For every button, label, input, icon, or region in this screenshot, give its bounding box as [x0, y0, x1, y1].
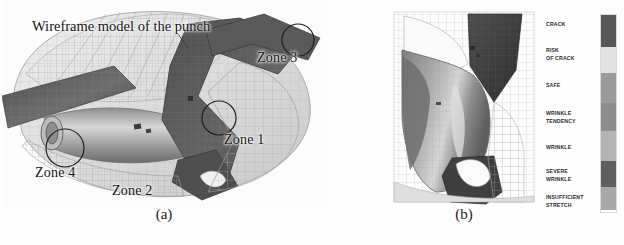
legend-label-severe-line-2: WRINKLE — [546, 176, 598, 184]
zone-3-label: Zone 3 — [257, 50, 297, 66]
wireframe-model-title: Wireframe model of the punch — [32, 18, 210, 35]
legend-label-insufficient-line-2: STRETCH — [546, 202, 598, 210]
caption-panel-b: (b) — [390, 206, 538, 223]
legend-item-crack: CRACK — [546, 21, 598, 29]
legend-label-wrinkle-tendency-line-2: TENDENCY — [546, 118, 598, 126]
legend-label-risk-line-1: RISK — [546, 47, 598, 55]
colorbar-segment-6 — [601, 187, 616, 210]
figure-root: Wireframe model of the punch Zone 1 Zone… — [0, 0, 624, 245]
colorbar-segment-4 — [601, 131, 616, 161]
legend-label-severe-line-1: SEVERE — [546, 168, 598, 176]
legend-label-risk-line-2: OF CRACK — [546, 55, 598, 63]
legend-label-safe-line-1: SAFE — [546, 82, 598, 90]
colorbar-segment-0 — [601, 15, 616, 47]
zone-2-label: Zone 2 — [112, 183, 152, 199]
legend-label-wrinkle-line-1: WRINKLE — [546, 144, 598, 152]
panel-b-render — [390, 6, 538, 206]
legend-item-risk-of-crack: RISK OF CRACK — [546, 47, 598, 62]
colorbar-segment-2 — [601, 73, 616, 103]
forming-limit-legend: CRACK RISK OF CRACK SAFE WRINKLE TENDENC… — [546, 6, 624, 211]
panel-b-formability-result — [390, 6, 538, 206]
legend-item-wrinkle: WRINKLE — [546, 144, 598, 152]
colorbar-segment-1 — [601, 47, 616, 73]
legend-label-column: CRACK RISK OF CRACK SAFE WRINKLE TENDENC… — [546, 6, 598, 211]
legend-label-crack-line-1: CRACK — [546, 21, 598, 29]
legend-item-safe: SAFE — [546, 82, 598, 90]
colorbar-segment-5 — [601, 161, 616, 187]
zone-1-label: Zone 1 — [224, 132, 264, 148]
panel-a-wireframe-punch: Wireframe model of the punch Zone 1 Zone… — [2, 0, 328, 208]
colorbar-segment-3 — [601, 103, 616, 131]
legend-label-wrinkle-tendency-line-1: WRINKLE — [546, 110, 598, 118]
legend-item-insufficient-stretch: INSUFFICIENT STRETCH — [546, 194, 598, 209]
zone-4-label: Zone 4 — [35, 165, 75, 181]
legend-item-severe-wrinkle: SEVERE WRINKLE — [546, 168, 598, 183]
legend-colorbar — [600, 14, 617, 213]
caption-panel-a: (a) — [0, 206, 328, 223]
legend-item-wrinkle-tendency: WRINKLE TENDENCY — [546, 110, 598, 125]
legend-label-insufficient-line-1: INSUFFICIENT — [546, 194, 598, 202]
